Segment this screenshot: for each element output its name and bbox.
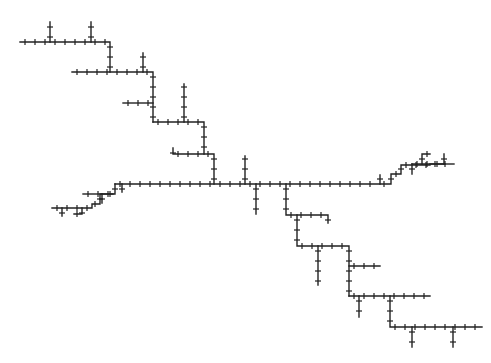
path-mid-drop-1 <box>286 184 328 223</box>
path-top-row <box>20 42 110 72</box>
path-left-stair <box>52 184 115 208</box>
path-main-trunk <box>115 165 430 184</box>
diagram-ticks <box>25 27 475 342</box>
path-row-2 <box>72 72 153 122</box>
path-mid-drop-2 <box>297 215 349 296</box>
tree-diagram <box>0 0 491 363</box>
path-row-4 <box>153 122 204 154</box>
path-lower-drop <box>390 296 482 327</box>
diagram-paths <box>20 22 482 347</box>
